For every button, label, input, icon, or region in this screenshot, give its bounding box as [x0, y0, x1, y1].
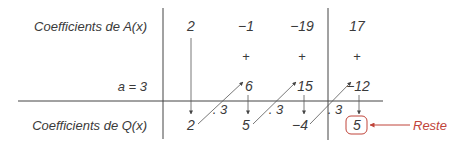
a-coefficient-0: 2 — [186, 18, 195, 34]
a-coefficient-3: 17 — [349, 18, 366, 34]
product-1: 6 — [245, 78, 253, 94]
product-2: 15 — [297, 78, 313, 94]
label-a-value: a = 3 — [118, 79, 148, 94]
diagonal-arrow-icon-1 — [198, 82, 243, 124]
q-coefficient-1: 5 — [242, 117, 250, 133]
plus-sign-3: + — [353, 49, 361, 64]
q-coefficient-2: −4 — [292, 117, 308, 133]
reste-label: Reste — [413, 118, 447, 133]
multiplier-2: . 3 — [269, 102, 284, 117]
multiplier-3: . 3 — [328, 102, 343, 117]
remainder-value: 5 — [353, 117, 361, 133]
multiplier-1: . 3 — [213, 102, 228, 117]
plus-sign-1: + — [242, 49, 250, 64]
product-3: −12 — [346, 78, 370, 94]
label-coefficients-q: Coefficients de Q(x) — [32, 118, 147, 133]
label-coefficients-a: Coefficients de A(x) — [34, 19, 147, 34]
a-coefficient-2: −19 — [290, 18, 314, 34]
a-coefficient-1: −1 — [238, 18, 254, 34]
plus-sign-2: + — [298, 49, 306, 64]
horner-diagram: Coefficients de A(x) a = 3 Coefficients … — [0, 0, 451, 146]
diagonal-arrow-icon-3 — [310, 82, 351, 124]
q-coefficient-0: 2 — [186, 117, 195, 133]
diagonal-arrow-icon-2 — [253, 82, 296, 124]
